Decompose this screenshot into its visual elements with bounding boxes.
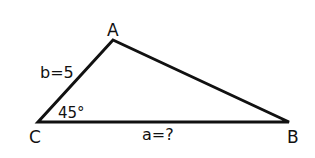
vertex-label-b: B: [287, 127, 299, 147]
side-label-b: b=5: [40, 63, 74, 82]
vertex-label-a: A: [107, 20, 119, 40]
vertex-label-c: C: [29, 127, 41, 147]
angle-label-c: 45°: [58, 104, 85, 122]
side-label-a: a=?: [142, 125, 174, 144]
triangle-diagram: A B C b=5 45° a=?: [0, 0, 315, 158]
